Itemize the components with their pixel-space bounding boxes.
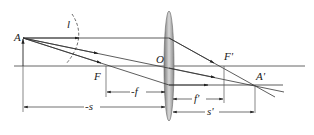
- label-f-prime: F': [223, 50, 234, 62]
- lens-ray-diagram: A l O F F' A' -f -s f' s': [0, 0, 314, 135]
- label-f: F: [93, 70, 101, 82]
- convex-lens: [164, 11, 174, 121]
- ray-arrow: [169, 68, 215, 78]
- label-a-prime: A': [255, 70, 266, 82]
- ray-arrow: [23, 38, 101, 63]
- ray-arrow: [169, 38, 214, 63]
- label-f-prime-dim: f': [194, 92, 200, 104]
- label-o: O: [156, 53, 164, 65]
- label-s-prime: s': [207, 105, 214, 117]
- ray-arrow: [23, 38, 98, 54]
- label-l: l: [67, 18, 70, 30]
- label-object-a: A: [13, 31, 21, 43]
- label-neg-s: -s: [85, 100, 93, 112]
